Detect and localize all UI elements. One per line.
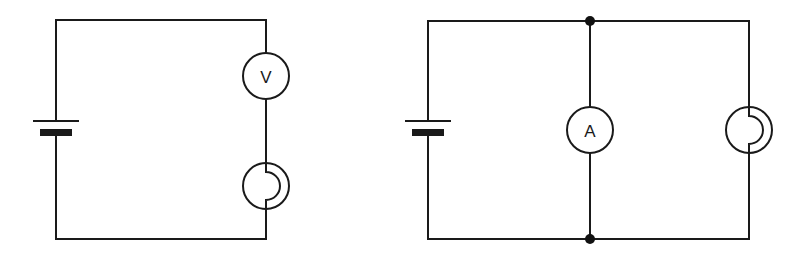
junction-top-dot bbox=[585, 16, 595, 26]
ammeter-label: A bbox=[584, 122, 596, 141]
right-lamp-icon bbox=[726, 107, 772, 153]
left-lamp-icon bbox=[243, 163, 289, 209]
left-wire-top bbox=[56, 20, 266, 121]
ammeter-icon: A bbox=[567, 107, 613, 153]
junction-bottom-dot bbox=[585, 234, 595, 244]
left-circuit: V bbox=[34, 20, 289, 239]
voltmeter-icon: V bbox=[243, 53, 289, 99]
voltmeter-label: V bbox=[260, 68, 272, 87]
right-wire-top bbox=[428, 21, 749, 121]
left-cell-icon bbox=[34, 121, 78, 136]
left-wire-bottom bbox=[56, 134, 266, 239]
right-cell-icon bbox=[406, 121, 450, 136]
right-circuit: A bbox=[406, 16, 772, 244]
circuit-diagrams: V A bbox=[0, 0, 786, 263]
